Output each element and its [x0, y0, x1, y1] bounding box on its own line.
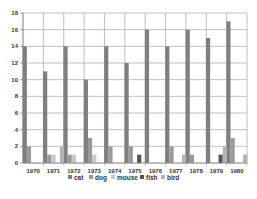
legend-swatch — [161, 175, 165, 179]
y-tick-label: 6 — [15, 110, 19, 116]
bar-dog-1974 — [108, 146, 112, 163]
legend-swatch — [89, 175, 93, 179]
bar-bird-1980 — [243, 155, 247, 163]
y-tick-label: 0 — [15, 160, 19, 166]
bar-cat-1973 — [84, 80, 88, 163]
y-tick-label: 18 — [11, 10, 18, 16]
legend-swatch — [140, 175, 144, 179]
bar-bird-1979 — [223, 146, 227, 163]
legend-label: dog — [95, 174, 107, 182]
x-tick-label: 1978 — [189, 168, 203, 174]
y-tick-label: 14 — [11, 43, 18, 49]
bar-bird-1977 — [182, 155, 186, 163]
bar-dog-1972 — [68, 155, 72, 163]
bar-mouse-1971 — [51, 155, 55, 163]
bar-cat-1975 — [125, 63, 129, 163]
bar-mouse-1972 — [72, 155, 76, 163]
legend-item-bird: bird — [161, 174, 179, 181]
x-tick-label: 1980 — [230, 168, 244, 174]
bar-chart: 024681012141618 197019711972197319741975… — [0, 0, 257, 199]
bar-cat-1976 — [145, 30, 149, 163]
y-tick-label: 16 — [11, 27, 18, 33]
bar-cat-1972 — [63, 46, 67, 163]
bar-fish-1979 — [219, 155, 223, 163]
bar-cat-1974 — [104, 46, 108, 163]
bar-cat-1979 — [206, 38, 210, 163]
bar-dog-1978 — [190, 155, 194, 163]
y-tick-label: 4 — [15, 127, 19, 133]
chart-grid — [23, 13, 247, 166]
x-tick-label: 1979 — [210, 168, 224, 174]
legend-label: bird — [167, 174, 179, 181]
bar-dog-1973 — [88, 138, 92, 163]
bar-dog-1975 — [129, 146, 133, 163]
bar-mouse-1973 — [92, 155, 96, 163]
bar-cat-1971 — [43, 71, 47, 163]
y-tick-label: 8 — [15, 93, 19, 99]
bar-dog-1970 — [27, 146, 31, 163]
bar-series — [23, 21, 248, 163]
legend-item-dog: dog — [89, 174, 107, 182]
x-tick-label: 1970 — [27, 168, 41, 174]
bar-fish-1975 — [137, 155, 141, 163]
bar-dog-1971 — [47, 155, 51, 163]
bar-cat-1970 — [23, 46, 27, 163]
bar-dog-1977 — [169, 146, 173, 163]
legend-swatch — [111, 175, 115, 179]
legend-label: fish — [146, 174, 158, 181]
bar-cat-1980 — [226, 21, 230, 163]
legend-label: cat — [74, 174, 84, 181]
x-axis: 1970197119721973197419751976197719781979… — [23, 163, 247, 174]
legend-label: mouse — [117, 174, 138, 181]
bar-bird-1971 — [60, 146, 64, 163]
y-tick-label: 12 — [11, 60, 18, 66]
y-tick-label: 10 — [11, 77, 18, 83]
legend-item-cat: cat — [68, 174, 84, 181]
y-axis: 024681012141618 — [11, 10, 23, 166]
legend-item-fish: fish — [140, 174, 158, 181]
x-tick-label: 1971 — [47, 168, 61, 174]
y-tick-label: 2 — [15, 143, 19, 149]
bar-dog-1980 — [231, 138, 235, 163]
legend-item-mouse: mouse — [111, 174, 138, 181]
bar-cat-1977 — [165, 46, 169, 163]
bar-cat-1978 — [186, 30, 190, 163]
chart-legend: catdogmousefishbird — [68, 174, 179, 182]
legend-swatch — [68, 175, 72, 179]
